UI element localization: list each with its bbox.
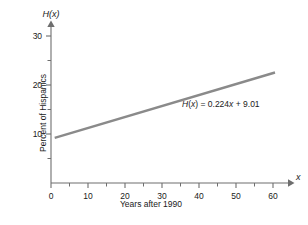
- y-axis-variable-label: H(x): [43, 9, 60, 19]
- x-tick-label-60: 60: [268, 191, 277, 201]
- equation-intercept: 9.01: [243, 99, 260, 109]
- x-tick-label-10: 10: [83, 191, 92, 201]
- y-tick-label-30: 30: [22, 31, 42, 41]
- equation-equals-sign: =: [200, 99, 205, 109]
- x-major-ticks: [51, 183, 273, 188]
- equation-plus-sign: +: [236, 99, 241, 109]
- x-axis-title: Years after 1990: [120, 199, 182, 209]
- x-tick-label-40: 40: [194, 191, 203, 201]
- x-tick-label-0: 0: [49, 191, 54, 201]
- y-axis-title: Percent of Hispanics: [38, 74, 48, 152]
- chart-figure: H(x) x 10 20 30 0 10 20 30 40 50 60 Perc…: [0, 0, 308, 225]
- regression-equation-annotation: H(x) = 0.224x + 9.01: [182, 99, 260, 109]
- x-axis-variable-label: x: [296, 172, 301, 182]
- equation-slope: 0.224: [208, 99, 229, 109]
- x-tick-label-50: 50: [231, 191, 240, 201]
- equation-variable-2: x: [229, 99, 233, 109]
- equation-close-paren: ): [195, 99, 198, 109]
